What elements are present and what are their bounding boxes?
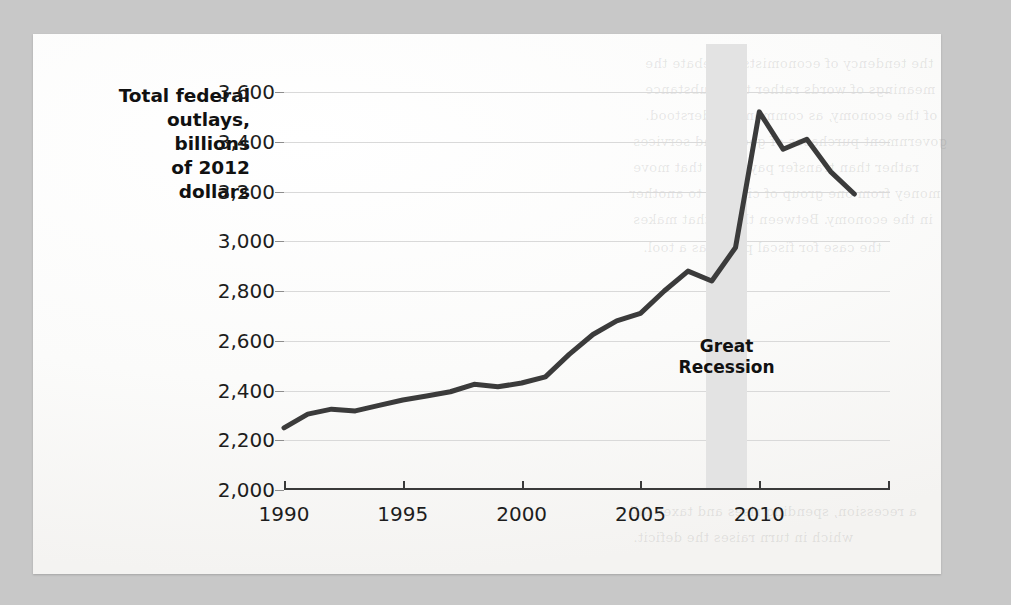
y-axis-tick-label: 3,000	[218, 229, 275, 253]
y-axis-tick	[275, 341, 284, 342]
y-axis-tick	[275, 192, 284, 193]
plot-area: 19901995200020052010 2,0002,2002,4002,60…	[284, 92, 890, 490]
y-axis-tick	[275, 440, 284, 441]
x-axis-tick	[640, 481, 642, 490]
y-axis-tick	[275, 391, 284, 392]
y-axis-tick	[275, 142, 284, 143]
x-axis-tick	[403, 481, 405, 490]
great-recession-label: GreatRecession	[679, 336, 775, 377]
x-axis-right-endcap	[888, 481, 890, 490]
x-axis-tick-label: 2000	[496, 502, 547, 526]
y-axis-tick-label: 2,200	[218, 428, 275, 452]
y-axis-tick-label: 2,400	[218, 379, 275, 403]
x-axis-line	[284, 488, 890, 490]
y-axis-tick-label: 2,600	[218, 329, 275, 353]
y-axis-tick-label: 3,400	[218, 130, 275, 154]
y-axis-tick-label: 2,000	[218, 478, 275, 502]
scanned-page: the tendency of economists to debate the…	[33, 34, 941, 574]
y-axis-title-line: outlays,	[93, 108, 250, 132]
annotation-label-line: Great	[679, 336, 775, 357]
series-line	[284, 92, 890, 490]
x-axis-tick-label: 1990	[259, 502, 310, 526]
y-axis-tick-label: 3,600	[218, 80, 275, 104]
x-axis-left-endcap	[284, 481, 286, 490]
y-axis-tick	[275, 490, 284, 491]
y-axis-tick	[275, 291, 284, 292]
annotation-label-line: Recession	[679, 357, 775, 378]
y-axis-tick	[275, 92, 284, 93]
x-axis-tick-label: 2005	[615, 502, 666, 526]
x-axis-tick-label: 2010	[734, 502, 785, 526]
x-axis-tick-label: 1995	[377, 502, 428, 526]
x-axis-tick	[522, 481, 524, 490]
y-axis-title-line: of 2012	[93, 156, 250, 180]
y-axis-tick-label: 3,200	[218, 180, 275, 204]
y-axis-tick-label: 2,800	[218, 279, 275, 303]
y-axis-tick	[275, 241, 284, 242]
x-axis-tick	[759, 481, 761, 490]
line-chart: Total federaloutlays,billionsof 2012doll…	[33, 34, 941, 574]
